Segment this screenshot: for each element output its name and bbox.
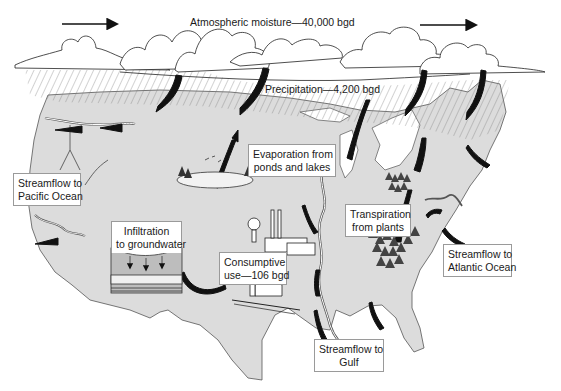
evaporation-label: Evaporation from ponds and lakes	[248, 144, 336, 177]
infiltration-label-line2: to groundwater	[116, 238, 177, 251]
streamflow-pacific-label: Streamflow to Pacific Ocean	[13, 173, 81, 206]
consumptive-use-label: Consumptive use—106 bgd	[219, 252, 287, 285]
streamflow-gulf-label-line1: Streamflow to	[319, 343, 379, 356]
streamflow-atlantic-label-line1: Streamflow to	[448, 248, 507, 261]
transpiration-label-line2: from plants	[350, 221, 406, 234]
streamflow-atlantic-label-line2: Atlantic Ocean	[448, 261, 507, 274]
evaporation-label-line2: ponds and lakes	[253, 161, 331, 174]
streamflow-pacific-label-line2: Pacific Ocean	[18, 190, 76, 203]
water-cycle-diagram	[0, 0, 561, 391]
transpiration-label: Transpiration from plants	[345, 204, 411, 237]
streamflow-gulf-label-line2: Gulf	[319, 356, 379, 369]
atmospheric-moisture-label: Atmospheric moisture—40,000 bgd	[190, 16, 355, 28]
streamflow-pacific-label-line1: Streamflow to	[18, 177, 76, 190]
streamflow-gulf-label: Streamflow to Gulf	[314, 339, 384, 372]
precipitation-label: Precipitation—4,200 bgd	[265, 83, 380, 95]
streamflow-arrow-icon	[369, 302, 384, 330]
evaporation-label-line1: Evaporation from	[253, 148, 331, 161]
groundwater-cross-section-icon	[111, 248, 182, 293]
streamflow-atlantic-label: Streamflow to Atlantic Ocean	[443, 244, 512, 277]
cloud-icon	[420, 43, 545, 74]
transpiration-label-line1: Transpiration	[350, 208, 406, 221]
infiltration-label-line1: Infiltration	[116, 225, 177, 238]
consumptive-use-label-line2: use—106 bgd	[224, 269, 282, 282]
consumptive-use-label-line1: Consumptive	[224, 256, 282, 269]
infiltration-label: Infiltration to groundwater	[111, 221, 182, 253]
